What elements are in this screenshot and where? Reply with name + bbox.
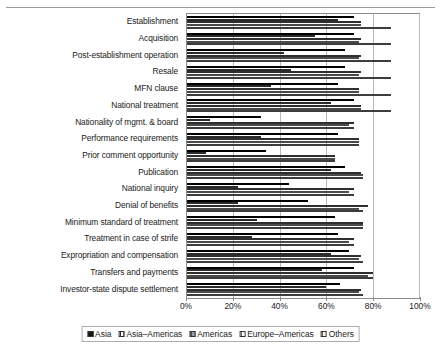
bar-others — [187, 277, 373, 279]
legend-item[interactable]: Others — [321, 329, 354, 339]
axis-tick-label: 40% — [271, 301, 288, 311]
bar-asia — [187, 66, 345, 68]
bar-others — [187, 60, 391, 62]
category-axis-labels: EstablishmentAcquisitionPost-establishme… — [0, 13, 183, 299]
bar-others — [187, 27, 391, 29]
bar-group — [187, 214, 419, 231]
bar-asia-americas — [187, 186, 238, 188]
category-label: MFN clause — [0, 80, 183, 97]
bar-asia — [187, 233, 338, 235]
bar-asia — [187, 99, 354, 101]
bar-group — [187, 281, 419, 298]
bar-americas — [187, 155, 335, 157]
value-axis-labels: 0%20%40%60%80%100% — [186, 301, 420, 315]
bar-others — [187, 227, 363, 229]
bar-americas — [187, 21, 361, 23]
bar-asia-americas — [187, 35, 315, 37]
bar-americas — [187, 38, 361, 40]
bar-asia — [187, 267, 354, 269]
bar-others — [187, 194, 354, 196]
bar-group — [187, 131, 419, 148]
bar-group — [187, 47, 419, 64]
bar-groups — [187, 14, 419, 298]
bar-others — [187, 177, 363, 179]
bar-others — [187, 160, 335, 162]
bar-asia-americas — [187, 102, 331, 104]
legend-label: Asia — [95, 329, 111, 339]
bar-asia-americas — [187, 253, 331, 255]
legend-item[interactable]: Asia — [87, 329, 111, 339]
bar-asia — [187, 166, 345, 168]
category-label: Prior comment opportunity — [0, 147, 183, 164]
bar-asia-americas — [187, 269, 322, 271]
bar-others — [187, 127, 354, 129]
legend-swatch-icon — [118, 331, 124, 337]
legend-label: Asia–Americas — [126, 329, 182, 339]
category-label: Publication — [0, 163, 183, 180]
bar-group — [187, 98, 419, 115]
category-label: Post-establishment operation — [0, 46, 183, 63]
bar-asia — [187, 133, 338, 135]
bar-europe-americas — [187, 74, 359, 76]
bar-americas — [187, 272, 373, 274]
bar-group — [187, 248, 419, 265]
legend-item[interactable]: Europe–Americas — [239, 329, 314, 339]
bar-americas — [187, 55, 361, 57]
bar-others — [187, 77, 391, 79]
bar-americas — [187, 238, 354, 240]
bar-group — [187, 64, 419, 81]
bar-asia — [187, 16, 354, 18]
bar-group — [187, 81, 419, 98]
legend-label: Others — [329, 329, 354, 339]
bar-group — [187, 148, 419, 165]
bar-europe-americas — [187, 57, 359, 59]
bar-asia-americas — [187, 119, 210, 121]
bar-europe-americas — [187, 124, 349, 126]
legend-label: Americas — [197, 329, 232, 339]
category-label: Transfers and payments — [0, 264, 183, 281]
bar-europe-americas — [187, 275, 368, 277]
bar-americas — [187, 188, 354, 190]
bar-americas — [187, 138, 359, 140]
category-label: Acquisition — [0, 30, 183, 47]
legend-item[interactable]: Asia–Americas — [118, 329, 182, 339]
bar-americas — [187, 172, 361, 174]
bar-asia-americas — [187, 52, 284, 54]
chart-legend: AsiaAsia–AmericasAmericasEurope–Americas… — [81, 326, 360, 342]
category-label: Resale — [0, 63, 183, 80]
legend-swatch-icon — [87, 331, 93, 337]
legend-item[interactable]: Americas — [189, 329, 232, 339]
bar-others — [187, 210, 363, 212]
bar-group — [187, 31, 419, 48]
bar-asia-americas — [187, 219, 257, 221]
bar-europe-americas — [187, 208, 359, 210]
category-label: National treatment — [0, 97, 183, 114]
gridline — [419, 14, 420, 298]
bar-europe-americas — [187, 158, 335, 160]
bar-others — [187, 94, 391, 96]
axis-tick-label: 100% — [409, 301, 430, 311]
category-label: Treatment in case of strife — [0, 230, 183, 247]
category-label: Nationality of mgmt. & board — [0, 113, 183, 130]
bar-americas — [187, 289, 361, 291]
bar-americas — [187, 122, 354, 124]
category-label: National inquiry — [0, 180, 183, 197]
legend-swatch-icon — [239, 331, 245, 337]
bar-europe-americas — [187, 224, 363, 226]
bar-others — [187, 144, 359, 146]
bar-asia — [187, 150, 266, 152]
bar-group — [187, 114, 419, 131]
axis-tick-label: 80% — [365, 301, 382, 311]
category-label: Denial of benefits — [0, 197, 183, 214]
bar-europe-americas — [187, 24, 361, 26]
bar-americas — [187, 205, 368, 207]
bar-asia — [187, 250, 349, 252]
bar-others — [187, 110, 391, 112]
category-label: Performance requirements — [0, 130, 183, 147]
category-label: Minimum standard of treatment — [0, 213, 183, 230]
bar-group — [187, 181, 419, 198]
bar-americas — [187, 71, 361, 73]
bar-americas — [187, 222, 363, 224]
category-label: Establishment — [0, 13, 183, 30]
axis-tick-label: 60% — [318, 301, 335, 311]
